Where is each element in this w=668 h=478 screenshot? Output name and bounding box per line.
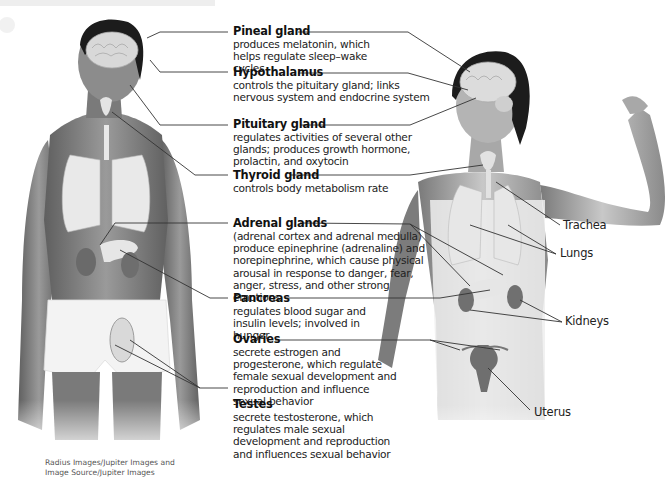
photo-credit: Radius Images/Jupiter Images and Image S… <box>45 458 215 478</box>
label-trachea: Trachea <box>563 218 606 232</box>
gland-description: secrete testosterone, which regulates ma… <box>233 411 408 460</box>
gland-description: regulates activities of several other gl… <box>233 131 413 168</box>
label-testes: Testes secrete testosterone, which regul… <box>233 398 443 460</box>
male-figure <box>0 19 215 460</box>
credit-line-2: Image Source/Jupiter Images <box>45 468 215 478</box>
gland-description: controls body metabolism rate <box>233 182 433 194</box>
credit-line-1: Radius Images/Jupiter Images and <box>45 458 215 468</box>
gland-name: Ovaries <box>233 333 443 346</box>
label-uterus: Uterus <box>534 405 571 419</box>
gland-name: Hypothalamus <box>233 66 443 79</box>
gland-description: controls the pituitary gland; links nerv… <box>233 79 433 103</box>
label-lungs: Lungs <box>560 246 593 260</box>
gland-name: Adrenal glands <box>233 217 443 230</box>
label-hypothalamus: Hypothalamus controls the pituitary glan… <box>233 66 443 103</box>
top-strip <box>0 0 215 6</box>
gland-name: Pituitary gland <box>233 118 443 131</box>
label-ovaries: Ovaries secrete estrogen and progesteron… <box>233 333 443 407</box>
gland-name: Testes <box>233 398 443 411</box>
label-thyroid-gland: Thyroid gland controls body metabolism r… <box>233 169 443 194</box>
gland-name: Pancreas <box>233 292 443 305</box>
label-kidneys: Kidneys <box>565 314 609 328</box>
gland-name: Pineal gland <box>233 25 443 38</box>
gland-name: Thyroid gland <box>233 169 443 182</box>
label-pituitary-gland: Pituitary gland regulates activities of … <box>233 118 443 168</box>
